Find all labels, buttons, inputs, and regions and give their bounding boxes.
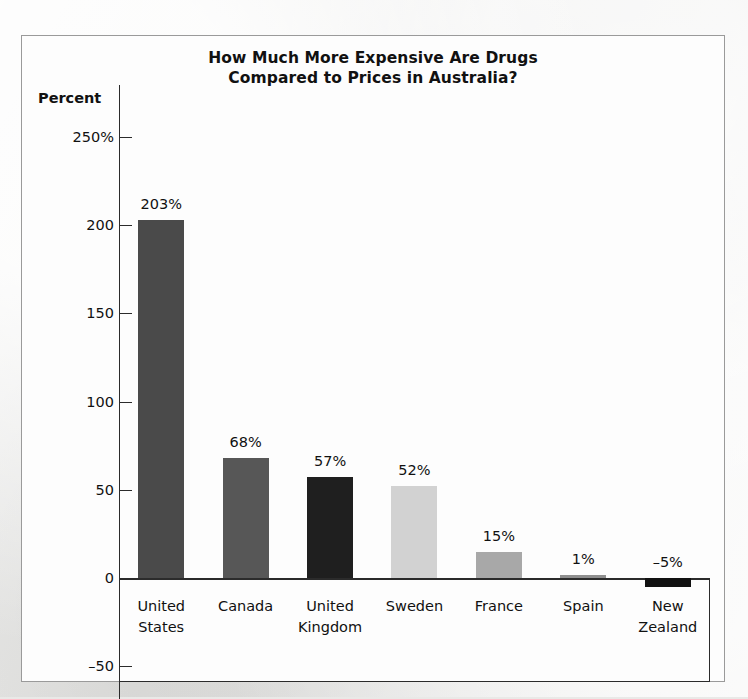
bar-value-label: 52% — [398, 462, 430, 478]
bar[interactable] — [645, 578, 691, 587]
x-category-label: Canada — [218, 596, 273, 617]
bar-group: –5%NewZealand — [626, 36, 710, 683]
x-category-label-line: France — [475, 596, 523, 617]
bar[interactable] — [476, 552, 522, 578]
bar-value-label: 203% — [140, 196, 181, 212]
y-tick-label: 150 — [24, 305, 114, 321]
x-category-label: Spain — [563, 596, 604, 617]
y-tick-label: 0 — [24, 570, 114, 586]
x-category-label-line: New — [638, 596, 697, 617]
bar-group: 57%UnitedKingdom — [288, 36, 372, 683]
figure-frame: How Much More Expensive Are Drugs Compar… — [21, 35, 725, 682]
x-category-label: UnitedStates — [137, 596, 185, 637]
x-category-label-line: Spain — [563, 596, 604, 617]
bar-value-label: –5% — [653, 554, 683, 570]
bar[interactable] — [223, 458, 269, 578]
x-category-label-line: Canada — [218, 596, 273, 617]
bar[interactable] — [138, 220, 184, 578]
x-category-label-line: United — [137, 596, 185, 617]
x-category-label-line: United — [298, 596, 362, 617]
y-tick-label: 250% — [24, 129, 114, 145]
y-tick-label: –50 — [24, 658, 114, 674]
bars-layer: 203%UnitedStates68%Canada57%UnitedKingdo… — [119, 36, 710, 683]
x-category-label-line: Zealand — [638, 617, 697, 638]
y-tick-label: 200 — [24, 217, 114, 233]
bar[interactable] — [307, 477, 353, 578]
x-category-label-line: States — [137, 617, 185, 638]
x-category-label: NewZealand — [638, 596, 697, 637]
bar[interactable] — [391, 486, 437, 578]
bar[interactable] — [560, 575, 606, 578]
bar-value-label: 15% — [483, 528, 515, 544]
x-category-label: France — [475, 596, 523, 617]
x-category-label-line: Kingdom — [298, 617, 362, 638]
bar-value-label: 57% — [314, 453, 346, 469]
bar-group: 52%Sweden — [372, 36, 456, 683]
bar-group: 203%UnitedStates — [119, 36, 203, 683]
x-category-label: Sweden — [386, 596, 443, 617]
y-tick-label: 100 — [24, 394, 114, 410]
bar-value-label: 1% — [572, 551, 595, 567]
bar-group: 15%France — [457, 36, 541, 683]
x-category-label: UnitedKingdom — [298, 596, 362, 637]
bar-group: 68%Canada — [203, 36, 287, 683]
plot-area: 250%200150100500–50 203%UnitedStates68%C… — [22, 36, 726, 683]
bar-value-label: 68% — [230, 434, 262, 450]
y-tick-label: 50 — [24, 482, 114, 498]
x-category-label-line: Sweden — [386, 596, 443, 617]
bar-group: 1%Spain — [541, 36, 625, 683]
